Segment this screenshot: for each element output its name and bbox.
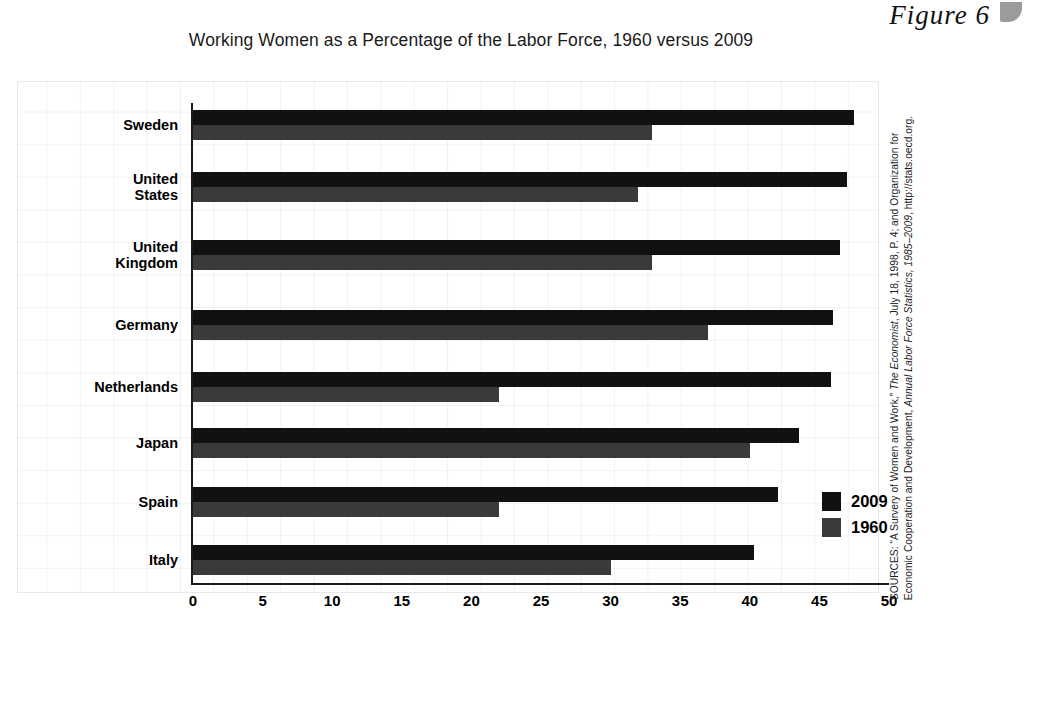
bar-2009 bbox=[193, 310, 833, 325]
legend-item-2009: 2009 bbox=[822, 492, 888, 511]
category-label-netherlands: Netherlands bbox=[18, 379, 178, 395]
source-note: SOURCES: “A Survery of Women and Work,” … bbox=[888, 100, 915, 600]
bar-2009 bbox=[193, 372, 831, 387]
bar-2009 bbox=[193, 428, 799, 443]
x-tick-15: 15 bbox=[382, 592, 422, 609]
bar-2009 bbox=[193, 240, 840, 255]
bar-1960 bbox=[193, 387, 499, 402]
x-tick-0: 0 bbox=[173, 592, 213, 609]
category-label-united-states: UnitedStates bbox=[18, 171, 178, 203]
bar-1960 bbox=[193, 255, 652, 270]
bar-2009 bbox=[193, 487, 778, 502]
bar-1960 bbox=[193, 560, 611, 575]
legend-label-1960: 1960 bbox=[851, 518, 888, 537]
category-label-line1: Netherlands bbox=[18, 379, 178, 395]
x-tick-10: 10 bbox=[312, 592, 352, 609]
source-note-wrap: SOURCES: “A Survery of Women and Work,” … bbox=[915, 100, 975, 600]
bar-2009 bbox=[193, 110, 854, 125]
legend-swatch-1960 bbox=[822, 518, 841, 537]
category-label-line1: Spain bbox=[18, 494, 178, 510]
category-label-united-kingdom: UnitedKingdom bbox=[18, 239, 178, 271]
category-label-sweden: Sweden bbox=[18, 117, 178, 133]
bar-2009 bbox=[193, 172, 847, 187]
page-tab-icon bbox=[1000, 2, 1022, 22]
x-tick-35: 35 bbox=[660, 592, 700, 609]
x-tick-5: 5 bbox=[243, 592, 283, 609]
legend-swatch-2009 bbox=[822, 492, 841, 511]
category-label-line2: Kingdom bbox=[18, 255, 178, 271]
chart-title: Working Women as a Percentage of the Lab… bbox=[0, 30, 1062, 51]
chart-legend: 20091960 bbox=[822, 492, 888, 544]
category-label-line1: Germany bbox=[18, 317, 178, 333]
bar-1960 bbox=[193, 125, 652, 140]
x-tick-30: 30 bbox=[591, 592, 631, 609]
legend-item-1960: 1960 bbox=[822, 518, 888, 537]
x-tick-20: 20 bbox=[451, 592, 491, 609]
figure-label: Figure 6 bbox=[889, 0, 990, 31]
category-label-line1: Italy bbox=[18, 552, 178, 568]
category-label-japan: Japan bbox=[18, 435, 178, 451]
bar-1960 bbox=[193, 502, 499, 517]
bar-1960 bbox=[193, 187, 638, 202]
category-label-line2: States bbox=[18, 187, 178, 203]
category-label-italy: Italy bbox=[18, 552, 178, 568]
legend-label-2009: 2009 bbox=[851, 492, 888, 511]
x-tick-25: 25 bbox=[521, 592, 561, 609]
source-prefix: SOURCES: “A Survery of Women and Work,” bbox=[889, 390, 900, 600]
category-label-germany: Germany bbox=[18, 317, 178, 333]
category-label-line1: United bbox=[18, 171, 178, 187]
source-italic-oecd: Annual Labor Force Statistics, 1985–2009 bbox=[902, 215, 913, 407]
x-tick-40: 40 bbox=[730, 592, 770, 609]
x-tick-45: 45 bbox=[799, 592, 839, 609]
bar-2009 bbox=[193, 545, 754, 560]
category-label-line1: Sweden bbox=[18, 117, 178, 133]
category-label-line1: Japan bbox=[18, 435, 178, 451]
bar-1960 bbox=[193, 443, 750, 458]
x-axis-line bbox=[192, 583, 889, 585]
category-label-spain: Spain bbox=[18, 494, 178, 510]
bar-1960 bbox=[193, 325, 708, 340]
category-label-line1: United bbox=[18, 239, 178, 255]
source-suffix: , http://stats.oecd.org. bbox=[902, 116, 913, 215]
source-italic-economist: The Economist bbox=[889, 321, 900, 390]
